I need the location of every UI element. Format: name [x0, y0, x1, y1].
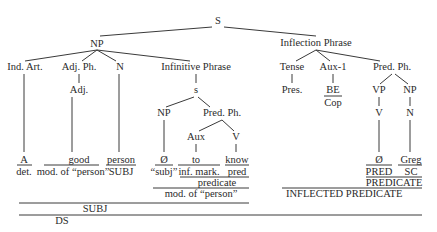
span-inflected-predicate: INFLECTED PREDICATE	[286, 188, 402, 199]
node-v: V	[375, 107, 383, 118]
leaf-word: Ø	[160, 154, 168, 165]
node-infinitive-phrase: Infinitive Phrase	[161, 61, 231, 72]
node-aux-1: Aux-1	[320, 61, 347, 72]
leaf-word: Ø	[375, 154, 383, 165]
node-np: NP	[90, 38, 104, 49]
node-inflection-phrase: Inflection Phrase	[280, 37, 352, 48]
tree-leaves: A det. good mod. of “person” person SUBJ…	[16, 154, 422, 177]
tree-nodes: S NP Ind. Art. Adj. Ph. N Infinitive Phr…	[7, 15, 417, 142]
span-ds: DS	[55, 215, 69, 226]
node-aux: Aux	[187, 131, 206, 142]
node-cop: Cop	[324, 97, 342, 108]
node-pres: Pres.	[282, 84, 303, 95]
leaf-word: Greg	[401, 154, 423, 165]
node-n: N	[116, 61, 124, 72]
span-predicate-upper: PREDICATE	[366, 177, 423, 188]
node-tense: Tense	[280, 61, 305, 72]
leaf-word: good	[69, 154, 91, 165]
node-v-inner: V	[232, 131, 240, 142]
node-np-pred: NP	[403, 84, 417, 95]
leaf-role: “subj”	[151, 166, 178, 177]
syntax-tree-diagram: S NP Ind. Art. Adj. Ph. N Infinitive Phr…	[0, 0, 437, 232]
node-adj-ph: Adj. Ph.	[62, 61, 97, 72]
leaf-role: inf. mark.	[178, 166, 219, 177]
span-predicate: predicate	[198, 177, 237, 188]
leaf-word: person	[107, 154, 136, 165]
node-n-pred: N	[406, 107, 414, 118]
leaf-word: know	[225, 154, 249, 165]
leaf-role: pred	[228, 166, 247, 177]
node-s-inner: s	[194, 84, 198, 95]
node-be: BE	[326, 84, 339, 95]
node-adj: Adj.	[70, 84, 88, 95]
leaf-role: SC	[405, 166, 418, 177]
leaf-role: mod. of “person”	[37, 166, 110, 177]
node-vp: VP	[372, 84, 386, 95]
leaf-role: det.	[16, 166, 31, 177]
node-pred-ph-inner: Pred. Ph.	[203, 107, 241, 118]
span-subj: SUBJ	[83, 203, 108, 214]
node-ind-art: Ind. Art.	[7, 61, 42, 72]
leaf-role: PRED	[366, 166, 393, 177]
function-spans: predicate mod. of “person” PREDICATE INF…	[19, 177, 422, 226]
leaf-role: SUBJ	[109, 166, 134, 177]
node-pred-ph: Pred. Ph.	[373, 61, 411, 72]
leaf-word: A	[20, 154, 28, 165]
leaf-word: to	[192, 154, 200, 165]
span-mod-of-person: mod. of “person”	[165, 188, 238, 199]
node-np-inner: NP	[157, 107, 171, 118]
node-s-root: S	[215, 15, 221, 26]
